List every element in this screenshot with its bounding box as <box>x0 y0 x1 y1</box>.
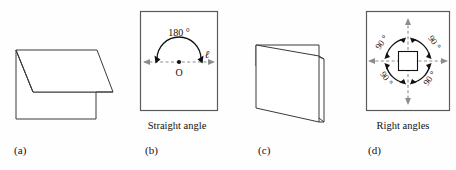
panel-label-d: (d) <box>368 144 381 156</box>
figure-root: (a) 180 ° O ℓ Straigh <box>0 0 456 170</box>
panel-caption-b: Straight angle <box>122 120 232 131</box>
panel-label-c: (c) <box>258 144 271 156</box>
right-angles-drawing: 90 ° 90 ° 90 ° 90 ° <box>350 0 456 170</box>
vertex-label-o: O <box>175 67 182 78</box>
panel-d: 90 ° 90 ° 90 ° 90 ° Right angles (d) <box>350 0 456 170</box>
vertex-dot <box>177 60 181 64</box>
panel-label-b: (b) <box>145 144 158 156</box>
panel-b: 180 ° O ℓ Straight angle (b) <box>122 0 232 170</box>
straight-angle-drawing: 180 ° O ℓ <box>122 0 232 170</box>
card-front-panel <box>256 45 319 122</box>
line-label-l: ℓ <box>205 49 210 60</box>
panel-label-a: (a) <box>14 144 27 156</box>
panel-c: (c) <box>232 0 350 170</box>
right-angle-square-marker <box>399 52 418 71</box>
panel-a: (a) <box>0 0 122 170</box>
angle-label-180: 180 ° <box>168 27 190 38</box>
folded-paper-closed-drawing <box>232 0 350 170</box>
panel-caption-d: Right angles <box>350 120 456 131</box>
